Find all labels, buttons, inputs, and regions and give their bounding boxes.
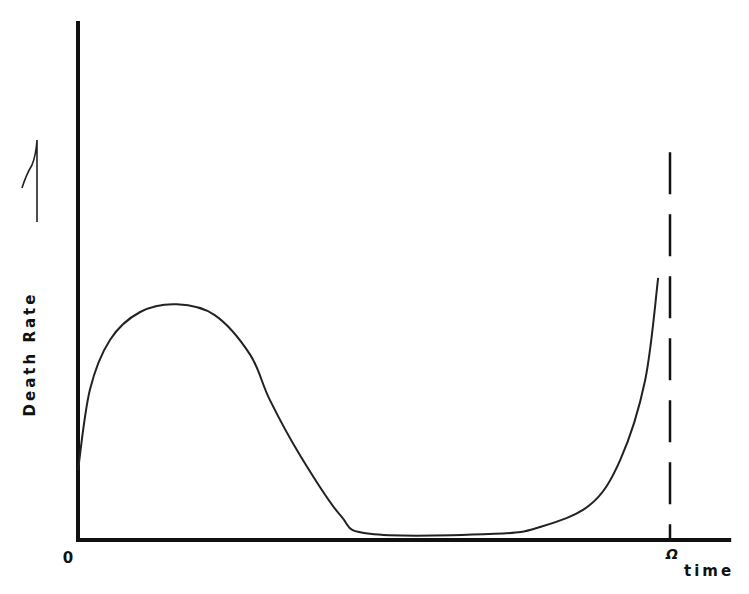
omega-tick-label: Ω [665, 546, 678, 562]
y-axis-label: Death Rate [21, 292, 39, 417]
arrow-stroke [22, 140, 37, 222]
x-axis-label: time [684, 562, 734, 580]
origin-tick-label: 0 [63, 549, 73, 567]
death-rate-curve [78, 278, 658, 536]
y-axis-label-group: Death Rate [10, 130, 50, 410]
up-arrow-icon [10, 130, 50, 230]
chart-canvas: 0 Ω time [0, 0, 749, 594]
